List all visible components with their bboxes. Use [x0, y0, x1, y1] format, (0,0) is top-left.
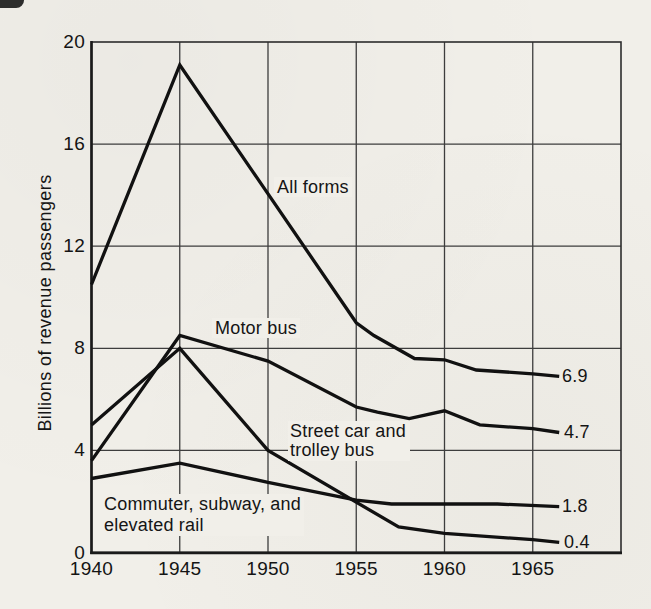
series-label-street-car: Street car and trolley bus: [288, 421, 410, 461]
y-tick-label-12: 12: [41, 235, 85, 257]
y-tick-label-4: 4: [41, 439, 85, 461]
x-tick-label-1945: 1945: [150, 558, 210, 580]
end-value-street-car: 0.4: [564, 532, 590, 552]
series-line-all-forms: [92, 65, 560, 376]
series-label-commuter-line1: Commuter, subway, and: [104, 494, 301, 515]
x-tick-label-1965: 1965: [503, 558, 563, 580]
y-axis-title: Billions of revenue passengers: [35, 174, 56, 431]
y-tick-label-20: 20: [41, 31, 85, 53]
x-tick-label-1955: 1955: [326, 558, 386, 580]
series-label-all-forms: All forms: [274, 177, 352, 197]
end-value-motor-bus: 4.7: [564, 422, 590, 442]
transit-ridership-line-chart: Billions of revenue passengers All forms…: [0, 0, 651, 609]
end-value-all-forms: 6.9: [562, 366, 588, 386]
y-tick-label-0: 0: [41, 542, 85, 564]
y-tick-label-16: 16: [41, 133, 85, 155]
series-label-motor-bus: Motor bus: [212, 318, 300, 338]
end-value-commuter-rail: 1.8: [562, 496, 588, 516]
series-label-street-car-line1: Street car and: [290, 422, 406, 441]
series-label-commuter-line2: elevated rail: [104, 515, 301, 536]
x-tick-label-1950: 1950: [238, 558, 298, 580]
series-label-street-car-line2: trolley bus: [290, 441, 406, 460]
y-tick-label-8: 8: [41, 337, 85, 359]
series-label-commuter-rail: Commuter, subway, and elevated rail: [101, 494, 304, 536]
chart-plot-svg: [0, 0, 651, 609]
x-tick-label-1960: 1960: [415, 558, 475, 580]
